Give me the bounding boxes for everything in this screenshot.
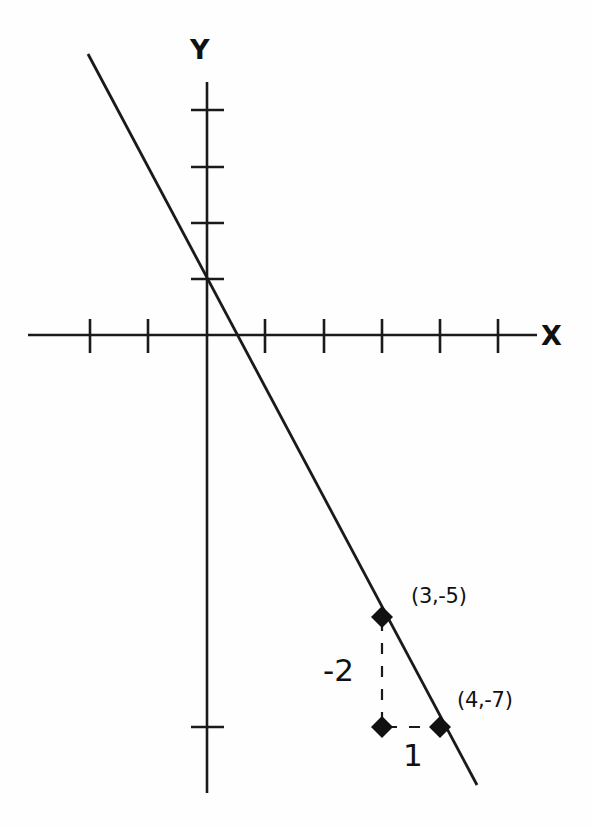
x-axis-label: X: [541, 322, 562, 349]
marker-corner-point: [371, 716, 393, 738]
slope-rise-label: -2: [323, 655, 354, 686]
point-label-4-neg7: (4,-7): [457, 690, 513, 711]
plotted-line: [88, 54, 477, 785]
slope-run-label: 1: [403, 740, 423, 771]
marker-point-3-neg5: [371, 606, 393, 628]
coordinate-plane-figure: Y X (3,-5) (4,-7) -2 1: [0, 0, 591, 828]
y-axis-label: Y: [190, 36, 210, 63]
marker-point-4-neg7: [429, 716, 451, 738]
point-label-3-neg5: (3,-5): [411, 586, 467, 607]
